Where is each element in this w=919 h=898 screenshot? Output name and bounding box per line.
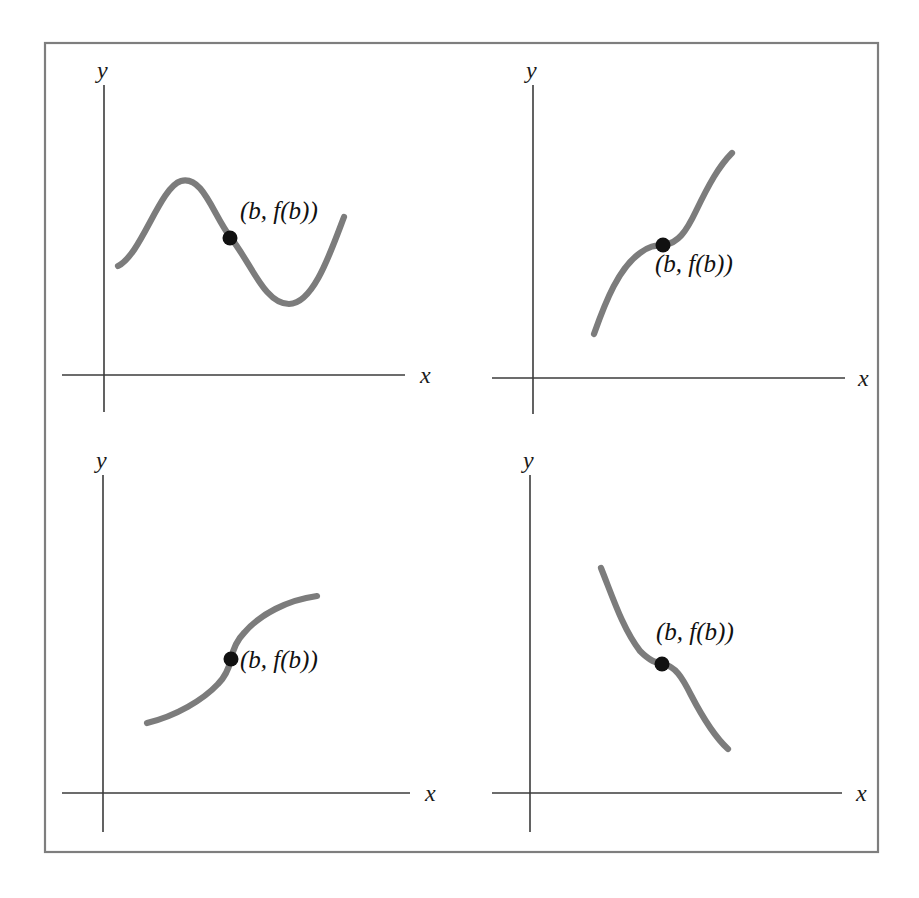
figure-container: x y (b, f(b)) x y (b, f(b)) x y (b, f(b)… [0,0,919,898]
inflection-point-marker [223,231,238,246]
x-axis-label: x [857,365,869,391]
y-axis-label: y [94,447,107,473]
figure-border [45,43,878,852]
panel-bottom-left: x y (b, f(b)) [62,447,436,832]
four-panel-inflection-figure: x y (b, f(b)) x y (b, f(b)) x y (b, f(b)… [0,0,919,898]
panel-top-right: x y (b, f(b)) [492,57,869,414]
x-axis-label: x [419,362,431,388]
inflection-point-label: (b, f(b)) [240,197,318,225]
inflection-point-marker [655,657,670,672]
y-axis-label: y [521,447,534,473]
x-axis-label: x [855,780,867,806]
inflection-point-marker [224,652,239,667]
panel-bottom-right: x y (b, f(b)) [492,447,867,832]
inflection-point-label: (b, f(b)) [655,250,733,278]
y-axis-label: y [95,57,108,83]
inflection-point-label: (b, f(b)) [240,646,318,674]
x-axis-label: x [424,780,436,806]
inflection-point-label: (b, f(b)) [656,618,734,646]
y-axis-label: y [524,57,537,83]
panel-top-left: x y (b, f(b)) [62,57,431,412]
